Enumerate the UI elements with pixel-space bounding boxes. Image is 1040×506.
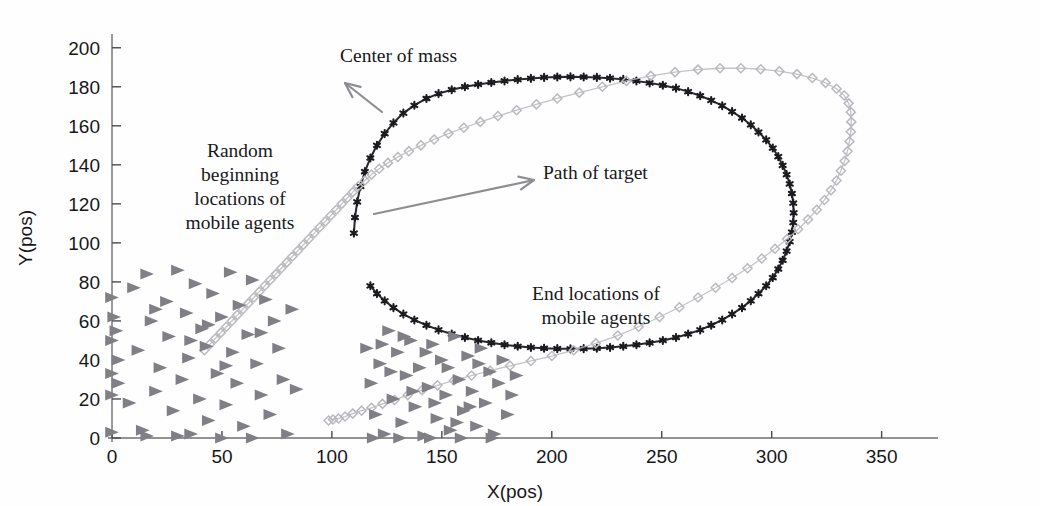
marker-right-triangle (180, 308, 194, 319)
marker-right-triangle (189, 278, 203, 289)
marker-right-triangle (409, 401, 423, 412)
marker-star (787, 180, 793, 187)
marker-right-triangle (391, 347, 405, 358)
marker-right-triangle (453, 374, 467, 385)
marker-star (790, 200, 796, 207)
x-tick-label: 250 (646, 446, 678, 467)
annotation-end-locations: End locations ofmobile agents (532, 283, 660, 328)
y-tick-label: 200 (68, 38, 100, 59)
marker-right-triangle (510, 370, 524, 381)
marker-right-triangle (450, 417, 464, 428)
annotation-label: beginning (201, 164, 279, 185)
marker-right-triangle (127, 282, 141, 293)
marker-right-triangle (233, 300, 247, 311)
annotation-path-of-target: Path of target (374, 162, 648, 214)
series-center-of-mass (200, 64, 856, 425)
marker-right-triangle (255, 327, 269, 338)
annotation-label: mobile agents (186, 212, 295, 233)
marker-right-triangle (220, 399, 234, 410)
axes-layer: 0501001502002503003500204060801001201401… (15, 34, 938, 502)
annotation-label: locations of (194, 188, 286, 209)
y-tick-label: 100 (68, 233, 100, 254)
marker-right-triangle (242, 329, 256, 340)
marker-right-triangle (149, 386, 163, 397)
marker-right-triangle (365, 378, 379, 389)
marker-right-triangle (442, 362, 456, 373)
marker-right-triangle (220, 360, 234, 371)
marker-right-triangle (167, 405, 181, 416)
marker-right-triangle (206, 288, 220, 299)
marker-right-triangle (202, 415, 216, 426)
marker-right-triangle (154, 362, 168, 373)
marker-right-triangle (255, 390, 269, 401)
marker-star (354, 198, 360, 205)
marker-right-triangle (160, 296, 174, 307)
y-tick-label: 160 (68, 116, 100, 137)
x-tick-label: 350 (866, 446, 898, 467)
y-tick-label: 0 (89, 428, 100, 449)
scatter-plot: 0501001502002503003500204060801001201401… (0, 0, 1040, 506)
x-tick-label: 150 (426, 446, 458, 467)
y-tick-label: 180 (68, 77, 100, 98)
y-tick-label: 40 (79, 350, 100, 371)
marker-right-triangle (382, 325, 396, 336)
y-tick-label: 60 (79, 311, 100, 332)
marker-right-triangle (272, 343, 286, 354)
marker-right-triangle (162, 331, 176, 342)
marker-right-triangle (439, 390, 453, 401)
marker-right-triangle (470, 421, 484, 432)
marker-star (790, 219, 796, 226)
marker-right-triangle (140, 269, 154, 280)
marker-right-triangle (171, 431, 185, 442)
annotation-label: Center of mass (340, 45, 457, 66)
marker-star (791, 209, 797, 216)
marker-right-triangle (246, 274, 260, 285)
marker-right-triangle (455, 433, 469, 444)
marker-right-triangle (505, 390, 519, 401)
marker-right-triangle (424, 433, 438, 444)
marker-right-triangle (145, 315, 159, 326)
marker-right-triangle (112, 354, 126, 365)
marker-right-triangle (360, 343, 374, 354)
marker-right-triangle (413, 362, 427, 373)
marker-right-triangle (268, 315, 282, 326)
y-axis-title: Y(pos) (15, 210, 36, 266)
marker-right-triangle (231, 378, 245, 389)
marker-right-triangle (400, 370, 414, 381)
marker-right-triangle (479, 397, 493, 408)
marker-right-triangle (193, 393, 207, 404)
x-tick-label: 50 (211, 446, 232, 467)
marker-right-triangle (259, 294, 273, 305)
annotation-center-of-mass: Center of mass (340, 45, 457, 112)
marker-right-triangle (176, 374, 190, 385)
marker-right-triangle (290, 384, 304, 395)
marker-star (352, 214, 358, 221)
x-tick-label: 300 (756, 446, 788, 467)
marker-star (351, 230, 357, 237)
y-tick-label: 120 (68, 194, 100, 215)
annotation-arrow-shaft (374, 180, 534, 214)
marker-right-triangle (110, 325, 124, 336)
y-tick-label: 140 (68, 155, 100, 176)
marker-right-triangle (285, 304, 299, 315)
marker-right-triangle (224, 267, 238, 278)
x-axis-title: X(pos) (487, 481, 543, 502)
marker-right-triangle (492, 378, 506, 389)
x-tick-label: 200 (536, 446, 568, 467)
annotation-arrow-shaft (345, 83, 382, 112)
marker-right-triangle (171, 265, 185, 276)
annotation-layer: Center of massRandombeginninglocations o… (186, 45, 661, 328)
marker-right-triangle (184, 335, 198, 346)
marker-right-triangle (431, 413, 445, 424)
marker-right-triangle (112, 378, 126, 389)
marker-right-triangle (123, 397, 137, 408)
annotation-label: End locations of (532, 283, 660, 304)
y-tick-label: 20 (79, 389, 100, 410)
annotation-random-beginning-locations: Randombeginninglocations ofmobile agents (186, 140, 295, 233)
annotation-label: Random (207, 140, 273, 161)
y-tick-label: 80 (79, 272, 100, 293)
marker-right-triangle (501, 409, 515, 420)
marker-right-triangle (132, 345, 146, 356)
marker-right-triangle (250, 358, 264, 369)
series-line (204, 68, 851, 420)
